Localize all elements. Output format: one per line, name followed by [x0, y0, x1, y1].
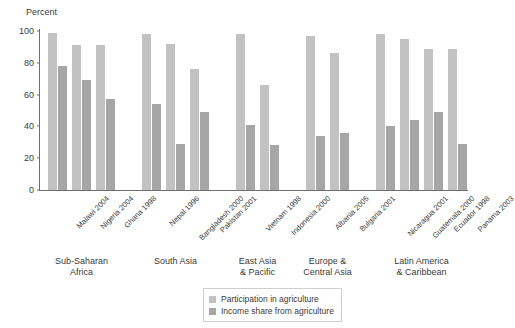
bar — [152, 104, 161, 190]
bar-group — [166, 31, 185, 190]
bar — [82, 80, 91, 190]
y-axis-tick-mark — [37, 94, 40, 95]
y-axis-tick-mark — [37, 31, 40, 32]
bar — [58, 66, 67, 190]
bar — [246, 125, 255, 190]
bar-group — [376, 31, 395, 190]
y-axis-tick-mark — [37, 126, 40, 127]
region-label: Latin America & Caribbean — [372, 256, 472, 278]
bar-group — [190, 31, 209, 190]
legend-label: Income share from agriculture — [221, 306, 334, 316]
bar — [190, 69, 199, 190]
bar-group — [72, 31, 91, 190]
y-axis-tick-mark — [37, 158, 40, 159]
bar-group — [48, 31, 67, 190]
bar-group — [236, 31, 255, 190]
bar — [236, 34, 245, 190]
bar — [142, 34, 151, 190]
plot-area: 020406080100 — [40, 31, 468, 190]
bar-group — [260, 31, 279, 190]
category-label: Nepal 1996 — [167, 194, 201, 228]
region-label: Sub-Saharan Africa — [32, 256, 132, 278]
region-label: Europe & Central Asia — [278, 256, 378, 278]
bar — [316, 136, 325, 190]
bar-group — [142, 31, 161, 190]
bar — [434, 112, 443, 190]
bar — [400, 39, 409, 190]
y-axis-tick-label: 80 — [4, 58, 40, 68]
bar — [340, 133, 349, 190]
bar — [330, 53, 339, 190]
bar — [306, 36, 315, 190]
bar — [176, 144, 185, 190]
chart-legend: Participation in agricultureIncome share… — [203, 288, 342, 322]
legend-swatch — [209, 296, 216, 303]
bar — [48, 33, 57, 190]
bar-group — [306, 31, 325, 190]
legend-swatch — [209, 308, 216, 315]
y-axis-tick-label: 60 — [4, 90, 40, 100]
bar — [376, 34, 385, 190]
bar — [72, 45, 81, 190]
y-axis-tick-label: 20 — [4, 153, 40, 163]
bar — [386, 126, 395, 190]
legend-label: Participation in agriculture — [221, 294, 319, 304]
bar-group — [330, 31, 349, 190]
y-axis-tick-label: 0 — [4, 185, 40, 195]
x-axis-line — [39, 190, 468, 191]
legend-item: Income share from agriculture — [209, 305, 334, 317]
bar-group — [424, 31, 443, 190]
bar — [270, 145, 279, 190]
bar — [410, 120, 419, 190]
bar — [200, 112, 209, 190]
y-axis-tick-mark — [37, 190, 40, 191]
bar-group — [96, 31, 115, 190]
y-axis-tick-mark — [37, 62, 40, 63]
bar — [96, 45, 105, 190]
bar-group — [400, 31, 419, 190]
bar — [448, 49, 457, 191]
y-axis-tick-label: 40 — [4, 121, 40, 131]
legend-item: Participation in agriculture — [209, 293, 334, 305]
y-axis-tick-label: 100 — [4, 26, 40, 36]
bar — [166, 44, 175, 190]
y-axis-title: Percent — [26, 7, 57, 17]
bar — [458, 144, 467, 190]
bar — [424, 49, 433, 191]
bar-group — [448, 31, 467, 190]
bar — [106, 99, 115, 190]
bar — [260, 85, 269, 190]
